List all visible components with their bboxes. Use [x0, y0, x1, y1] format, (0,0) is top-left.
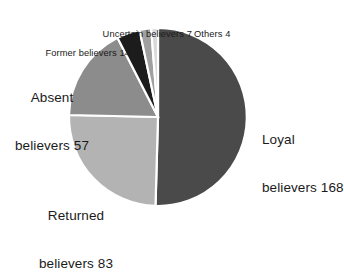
pie-label-uncertain-believers: Uncertain believers 7	[82, 7, 192, 62]
pie-label-uncertain-believers-line1: Uncertain believers 7	[82, 29, 192, 40]
pie-label-loyal-believers-line2: believers 168	[262, 180, 344, 196]
pie-label-returned-believers-line1: Returned	[24, 208, 128, 224]
pie-label-loyal-believers-line1: Loyal	[262, 132, 344, 148]
pie-label-others-line1: Others 4	[194, 29, 230, 40]
pie-label-others: Others 4	[194, 7, 230, 62]
pie-label-returned-believers-line2: believers 83	[24, 256, 128, 272]
pie-label-returned-believers: Returned believers 83	[24, 176, 128, 272]
pie-label-absent-believers-line1: Absent	[6, 90, 98, 106]
pie-label-loyal-believers: Loyal believers 168	[262, 100, 344, 227]
pie-label-absent-believers-line2: believers 57	[6, 138, 98, 154]
